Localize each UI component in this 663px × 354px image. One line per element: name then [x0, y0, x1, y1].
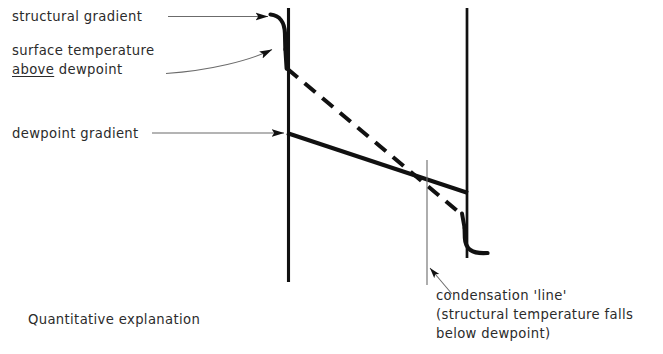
figure-caption: Quantitative explanation: [28, 310, 200, 329]
label-above-emphasis: above: [12, 62, 54, 77]
diagram-canvas: structural gradient surface temperature …: [0, 0, 663, 354]
label-dewpoint-rest: dewpoint: [54, 62, 122, 77]
condensation-line-1: condensation 'line': [436, 288, 567, 303]
label-surface-temperature: surface temperature: [12, 41, 154, 60]
leader-surface-temperature: [166, 50, 272, 74]
structural-gradient-top-stub: [285, 50, 286, 69]
structural-gradient-bottom-stub: [462, 214, 465, 229]
label-condensation-annotation: condensation 'line'(structural temperatu…: [436, 286, 633, 343]
condensation-line-2: (structural temperature falls: [436, 307, 633, 322]
label-dewpoint-gradient: dewpoint gradient: [12, 124, 139, 143]
label-structural-gradient: structural gradient: [12, 7, 142, 26]
structural-gradient-top-hook: [271, 15, 286, 50]
label-above-dewpoint: above dewpoint: [12, 60, 122, 79]
condensation-line-3: below dewpoint): [436, 326, 551, 341]
